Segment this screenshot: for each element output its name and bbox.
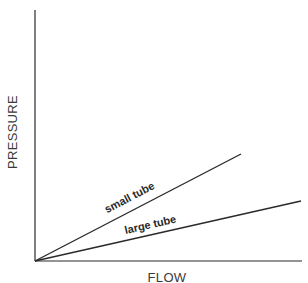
- series-line-large-tube: [35, 201, 301, 261]
- x-axis-label: FLOW: [148, 270, 187, 283]
- y-axis-label: PRESSURE: [5, 95, 20, 169]
- series-line-small-tube: [35, 154, 241, 261]
- chart-canvas: [0, 0, 308, 283]
- pressure-flow-chart: PRESSURE FLOW small tube large tube: [0, 0, 308, 283]
